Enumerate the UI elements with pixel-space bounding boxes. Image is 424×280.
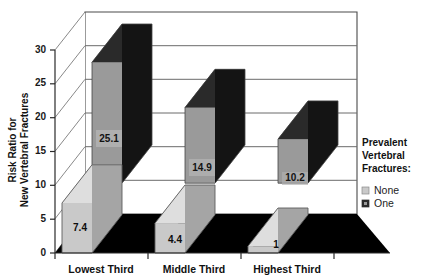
bar-value-one-highest: 10.2 (285, 172, 305, 183)
bar-value-none-highest: 1 (273, 239, 279, 250)
y-tick-label-10: 10 (35, 179, 47, 190)
y-axis-title-line-2: New Vertebral Fractures (19, 92, 30, 207)
x-axis (55, 253, 390, 259)
bar-value-one-lowest: 25.1 (99, 133, 119, 144)
legend-title-line-1: Prevalent (362, 137, 408, 148)
legend-title-line-3: Fractures: (362, 163, 411, 174)
x-category-labels: Lowest Third Middle Third Highest Third (68, 263, 321, 275)
legend-label-none: None (374, 184, 399, 196)
bar-value-one-middle: 14.9 (192, 162, 212, 173)
x-category-label-middle-third: Middle Third (163, 263, 225, 275)
bar-chart: 0 5 10 15 20 25 30 Risk Ratio for New Ve… (0, 0, 424, 280)
bar-value-none-lowest: 7.4 (73, 222, 87, 233)
legend-entry-one[interactable]: One (362, 197, 394, 209)
y-tick-label-5: 5 (40, 213, 46, 224)
y-tick-label-20: 20 (35, 111, 47, 122)
y-tick-label-15: 15 (35, 145, 47, 156)
legend-label-one: One (374, 197, 394, 209)
y-tick-label-25: 25 (35, 77, 47, 88)
y-tick-label-0: 0 (40, 247, 46, 258)
legend-entry-none[interactable]: None (362, 184, 399, 196)
y-tick-labels: 0 5 10 15 20 25 30 (35, 44, 47, 258)
chart-canvas: 0 5 10 15 20 25 30 Risk Ratio for New Ve… (0, 0, 424, 280)
y-axis (50, 50, 55, 253)
x-category-label-highest-third: Highest Third (253, 263, 321, 275)
legend-swatch-none (362, 187, 369, 194)
legend-swatch-one-inner (364, 202, 367, 205)
x-category-label-lowest-third: Lowest Third (68, 263, 133, 275)
legend-title-line-2: Vertebral (362, 150, 405, 161)
y-axis-title-line-1: Risk Ratio for (7, 117, 18, 182)
bar-value-none-middle: 4.4 (168, 234, 182, 245)
legend: Prevalent Vertebral Fractures: None One (362, 137, 411, 209)
y-tick-label-30: 30 (35, 44, 47, 55)
y-axis-title: Risk Ratio for New Vertebral Fractures (7, 92, 30, 207)
